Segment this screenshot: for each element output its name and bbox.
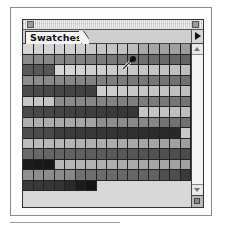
swatch[interactable] (23, 76, 34, 87)
swatch[interactable] (160, 118, 171, 129)
swatch[interactable] (170, 65, 181, 76)
swatch[interactable] (86, 118, 97, 129)
swatch[interactable] (76, 76, 87, 87)
swatch[interactable] (55, 44, 66, 55)
swatch[interactable] (55, 128, 66, 139)
swatch[interactable] (107, 160, 118, 171)
swatch[interactable] (128, 139, 139, 150)
swatch[interactable] (118, 149, 129, 160)
swatch[interactable] (34, 170, 45, 181)
panel-menu-button[interactable] (191, 30, 203, 43)
swatch[interactable] (55, 107, 66, 118)
swatch[interactable] (128, 107, 139, 118)
swatch[interactable] (55, 160, 66, 171)
swatch[interactable] (34, 97, 45, 108)
swatch[interactable] (55, 97, 66, 108)
swatch[interactable] (128, 149, 139, 160)
swatch[interactable] (76, 107, 87, 118)
swatch[interactable] (139, 107, 150, 118)
swatch[interactable] (34, 181, 45, 192)
swatch[interactable] (97, 65, 108, 76)
swatch[interactable] (97, 139, 108, 150)
swatch[interactable] (170, 86, 181, 97)
swatch[interactable] (65, 44, 76, 55)
swatch[interactable] (65, 86, 76, 97)
swatch[interactable] (44, 107, 55, 118)
swatch[interactable] (34, 44, 45, 55)
swatch[interactable] (170, 44, 181, 55)
swatch[interactable] (128, 97, 139, 108)
swatch[interactable] (86, 65, 97, 76)
swatch[interactable] (160, 97, 171, 108)
swatch[interactable] (76, 86, 87, 97)
swatch[interactable] (149, 65, 160, 76)
swatch[interactable] (181, 139, 192, 150)
swatch[interactable] (107, 76, 118, 87)
swatch[interactable] (97, 97, 108, 108)
swatch[interactable] (139, 170, 150, 181)
swatch[interactable] (118, 128, 129, 139)
swatch[interactable] (181, 128, 192, 139)
swatch[interactable] (55, 170, 66, 181)
swatch[interactable] (170, 107, 181, 118)
swatch[interactable] (181, 107, 192, 118)
swatch[interactable] (55, 181, 66, 192)
swatch[interactable] (76, 44, 87, 55)
swatch[interactable] (107, 128, 118, 139)
swatch[interactable] (170, 160, 181, 171)
swatch[interactable] (181, 149, 192, 160)
swatch[interactable] (65, 55, 76, 66)
swatch[interactable] (86, 128, 97, 139)
swatch[interactable] (107, 118, 118, 129)
swatch[interactable] (44, 55, 55, 66)
swatch[interactable] (160, 107, 171, 118)
swatch[interactable] (139, 149, 150, 160)
swatch[interactable] (149, 97, 160, 108)
swatch[interactable] (97, 55, 108, 66)
swatch[interactable] (65, 160, 76, 171)
swatch[interactable] (97, 149, 108, 160)
swatch[interactable] (149, 118, 160, 129)
swatch[interactable] (128, 160, 139, 171)
swatch[interactable] (65, 76, 76, 87)
scroll-up-arrow-icon[interactable] (192, 44, 203, 55)
swatch[interactable] (149, 170, 160, 181)
swatch[interactable] (97, 160, 108, 171)
swatch[interactable] (55, 76, 66, 87)
swatch[interactable] (118, 76, 129, 87)
swatch[interactable] (118, 170, 129, 181)
swatch[interactable] (34, 76, 45, 87)
swatch[interactable] (55, 55, 66, 66)
swatch[interactable] (107, 97, 118, 108)
swatch[interactable] (170, 128, 181, 139)
swatch[interactable] (170, 139, 181, 150)
swatch[interactable] (170, 170, 181, 181)
swatch[interactable] (23, 149, 34, 160)
swatch[interactable] (181, 86, 192, 97)
swatch[interactable] (149, 160, 160, 171)
swatch[interactable] (86, 44, 97, 55)
swatch[interactable] (107, 139, 118, 150)
swatch[interactable] (181, 76, 192, 87)
swatch[interactable] (160, 170, 171, 181)
swatch[interactable] (97, 44, 108, 55)
swatch[interactable] (160, 65, 171, 76)
swatch[interactable] (44, 128, 55, 139)
swatch[interactable] (149, 107, 160, 118)
swatch[interactable] (149, 55, 160, 66)
resize-grip-icon[interactable] (192, 195, 203, 207)
swatch[interactable] (76, 170, 87, 181)
swatch[interactable] (149, 149, 160, 160)
swatch[interactable] (23, 170, 34, 181)
swatch[interactable] (55, 118, 66, 129)
swatch[interactable] (65, 128, 76, 139)
swatch[interactable] (160, 139, 171, 150)
swatch[interactable] (97, 86, 108, 97)
swatch[interactable] (149, 44, 160, 55)
swatch[interactable] (107, 65, 118, 76)
swatch[interactable] (118, 160, 129, 171)
swatch[interactable] (149, 86, 160, 97)
swatch[interactable] (149, 139, 160, 150)
swatch[interactable] (76, 118, 87, 129)
swatch[interactable] (139, 55, 150, 66)
